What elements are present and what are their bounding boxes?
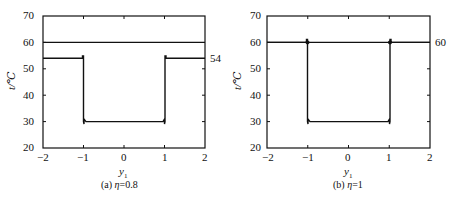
ytick-70: 70 xyxy=(23,10,34,21)
annotation-value: 60 xyxy=(435,37,446,48)
xtick-neg2: −2 xyxy=(37,152,49,163)
ytick-20: 20 xyxy=(23,142,34,153)
annotation-value: 54 xyxy=(210,53,221,64)
ytick-40: 40 xyxy=(250,90,261,101)
y-axis-label: t/℃ xyxy=(232,72,243,90)
xtick-2: 2 xyxy=(202,152,208,163)
ytick-60: 60 xyxy=(250,37,261,48)
panel-a-plot xyxy=(43,16,205,148)
panel-caption: (a) η=0.8 xyxy=(101,180,138,190)
xtick-0: 0 xyxy=(121,152,127,163)
ytick-40: 40 xyxy=(23,90,34,101)
ytick-50: 50 xyxy=(250,63,261,74)
panel-b-plot xyxy=(267,16,430,148)
ytick-30: 30 xyxy=(23,116,34,127)
panel-caption: (b) η=1 xyxy=(333,180,363,190)
xtick-neg2: −2 xyxy=(262,152,274,163)
xtick-1: 1 xyxy=(386,152,392,163)
xtick-2: 2 xyxy=(427,152,433,163)
xtick-0: 0 xyxy=(345,152,351,163)
xtick-neg1: −1 xyxy=(77,152,89,163)
temperature-profile xyxy=(43,56,205,124)
ytick-60: 60 xyxy=(23,37,34,48)
ytick-50: 50 xyxy=(23,63,34,74)
xtick-1: 1 xyxy=(162,152,168,163)
charts-canvas xyxy=(0,0,452,204)
xtick-neg1: −1 xyxy=(302,152,314,163)
y-axis-label: t/℃ xyxy=(6,72,17,90)
ytick-70: 70 xyxy=(250,10,261,21)
ytick-30: 30 xyxy=(250,116,261,127)
temperature-profile xyxy=(267,40,430,125)
ytick-20: 20 xyxy=(250,142,261,153)
